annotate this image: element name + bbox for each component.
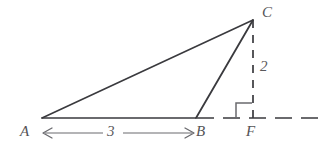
figure-canvas: [0, 0, 334, 161]
vertex-label-f: F: [246, 124, 255, 139]
right-angle-marker: [236, 103, 252, 118]
geometry-figure: A B C F 3 2: [0, 0, 334, 161]
dimension-line-ab: [43, 126, 194, 141]
segment-ac: [42, 20, 253, 118]
vertex-label-c: C: [262, 5, 272, 20]
measurement-label-base: 3: [107, 124, 115, 139]
vertex-label-b: B: [196, 124, 205, 139]
vertex-label-a: A: [20, 124, 29, 139]
measurement-label-height: 2: [260, 59, 268, 74]
